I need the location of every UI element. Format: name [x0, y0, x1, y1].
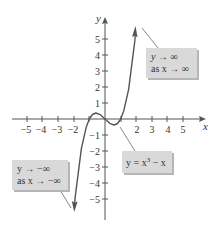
y-tick-label: −3: [89, 162, 100, 173]
svg-text:y = x3 − x: y = x3 − x: [126, 156, 166, 168]
x-tick-label: 4: [166, 124, 171, 135]
x-tick-label: −2: [68, 124, 79, 135]
x-tick-label: 5: [181, 124, 186, 135]
annotation-y-to-infinity: y → ∞ as x → ∞: [142, 28, 199, 80]
y-axis-arrow-icon: [102, 17, 108, 24]
x-tick-label: −3: [52, 124, 63, 135]
y-tick-label: −4: [89, 178, 100, 189]
left-box-line2: as x → −∞: [17, 175, 61, 186]
y-tick-label: −1: [89, 130, 100, 141]
y-tick-label: 2: [95, 82, 100, 93]
annotation-y-to-neg-infinity: y → −∞ as x → −∞: [12, 160, 71, 208]
y-tick-label: 1: [95, 98, 100, 109]
y-tick-label: −5: [89, 194, 100, 205]
x-tick-label: −5: [21, 124, 32, 135]
svg-text:y → −∞: y → −∞: [17, 163, 50, 174]
y-axis-label: y: [95, 12, 101, 24]
top-box-line2: as x → ∞: [151, 63, 189, 74]
x-tick-label: 2: [135, 124, 140, 135]
y-tick-label: −2: [89, 146, 100, 157]
svg-text:y → ∞: y → ∞: [150, 51, 178, 62]
x-tick-labels: −5 −4 −3 −2 2 3 4 5: [21, 124, 186, 135]
graph-figure: x y −5 −4 −3 −2 2 3 4 5: [0, 0, 221, 226]
x-axis-label: x: [202, 120, 208, 132]
equation-pre: y = x: [126, 157, 147, 168]
svg-text:as x → ∞: as x → ∞: [151, 63, 189, 74]
y-tick-label: 3: [95, 66, 100, 77]
x-tick-label: −4: [36, 124, 47, 135]
y-tick-label: 4: [95, 50, 100, 61]
left-box-line1: y → −∞: [17, 163, 50, 174]
top-box-line1: y → ∞: [150, 51, 178, 62]
x-tick-label: 3: [150, 124, 155, 135]
equation-post: − x: [150, 157, 166, 168]
svg-text:as x → −∞: as x → −∞: [17, 175, 61, 186]
y-tick-label: 5: [95, 34, 100, 45]
